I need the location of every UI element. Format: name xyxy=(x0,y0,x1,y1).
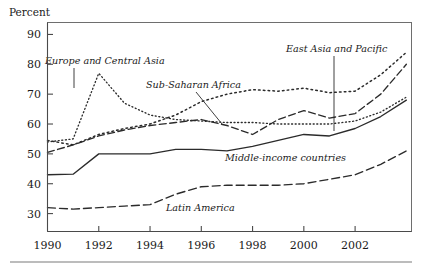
y-tick-label: 70 xyxy=(27,88,41,101)
series-label-east-asia-and-pacific: East Asia and Pacific xyxy=(285,43,388,54)
y-tick-label: 40 xyxy=(27,178,41,191)
x-tick-label: 1992 xyxy=(85,239,113,252)
y-axis-title: Percent xyxy=(9,6,51,18)
x-tick-label: 1994 xyxy=(136,239,164,252)
series-label-latin-america: Latin America xyxy=(165,202,235,213)
figure-background xyxy=(0,0,422,270)
x-tick-label: 1990 xyxy=(34,239,62,252)
y-tick-label: 30 xyxy=(27,208,41,221)
x-tick-label: 2002 xyxy=(341,239,369,252)
y-tick-label: 80 xyxy=(27,58,41,71)
x-tick-label: 1998 xyxy=(239,239,267,252)
series-label-sub-saharan-africa: Sub-Saharan Africa xyxy=(146,79,241,90)
series-label-middle-income-countries: Middle-income countries xyxy=(224,152,346,163)
y-tick-label: 50 xyxy=(27,148,41,161)
x-tick-label: 2000 xyxy=(290,239,318,252)
y-tick-label: 90 xyxy=(27,28,41,41)
series-label-europe-and-central-asia: Europe and Central Asia xyxy=(44,55,165,66)
chart-figure: Percent 30405060708090 19901992199419961… xyxy=(0,0,422,270)
x-tick-label: 1996 xyxy=(187,239,215,252)
y-tick-label: 60 xyxy=(27,118,41,131)
